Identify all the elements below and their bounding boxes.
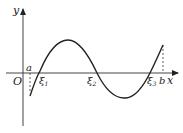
xi1-label: ξ1 bbox=[39, 75, 48, 87]
xi2-label: ξ2 bbox=[87, 75, 97, 87]
b-label: b bbox=[159, 75, 165, 86]
x-axis-label: x bbox=[167, 74, 174, 87]
y-axis-label: y bbox=[12, 4, 20, 17]
function-curve bbox=[30, 40, 163, 98]
origin-label: O bbox=[13, 75, 22, 88]
xi3-label: ξ3 bbox=[147, 75, 157, 87]
a-label: a bbox=[26, 62, 32, 73]
function-graph: y x O a b ξ1 ξ2 ξ3 bbox=[0, 0, 183, 133]
